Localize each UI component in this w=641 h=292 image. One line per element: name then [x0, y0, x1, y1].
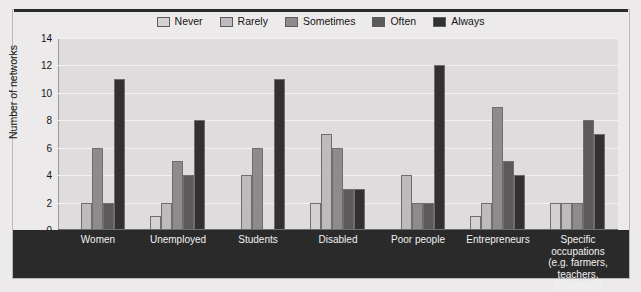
x-axis-labels: WomenUnemployedStudentsDisabledPoor peop…: [58, 230, 618, 278]
bar[interactable]: [310, 203, 321, 230]
bar[interactable]: [550, 203, 561, 230]
y-axis-title: Number of networks: [7, 12, 19, 172]
x-axis-category-label-line: Unemployed: [138, 234, 218, 246]
legend-item[interactable]: Sometimes: [285, 16, 356, 27]
x-axis-category-label: Unemployed: [138, 230, 218, 278]
bar[interactable]: [423, 203, 434, 230]
bar[interactable]: [194, 120, 205, 230]
bar-group: [58, 38, 138, 230]
bar[interactable]: [161, 203, 172, 230]
x-axis-category-label: Poor people: [378, 230, 458, 278]
legend-label: Often: [390, 16, 416, 27]
bar[interactable]: [183, 175, 194, 230]
bar[interactable]: [343, 189, 354, 230]
bar-group: [378, 38, 458, 230]
x-axis-category-label-line: Poor people: [378, 234, 458, 246]
bar-group: [218, 38, 298, 230]
bar[interactable]: [332, 148, 343, 230]
x-axis-category-label-line: Students: [218, 234, 298, 246]
bar[interactable]: [561, 203, 572, 230]
legend-label: Sometimes: [303, 16, 356, 27]
x-axis-category-label-line: teachers, fishermen): [538, 269, 618, 292]
x-axis-category-label: Disabled: [298, 230, 378, 278]
bar[interactable]: [594, 134, 605, 230]
bar[interactable]: [481, 203, 492, 230]
chart-legend: NeverRarelySometimesOftenAlways: [0, 16, 641, 27]
legend-label: Never: [175, 16, 203, 27]
legend-label: Rarely: [238, 16, 268, 27]
bar[interactable]: [434, 65, 445, 230]
bar[interactable]: [354, 189, 365, 230]
legend-item[interactable]: Often: [372, 16, 416, 27]
legend-item[interactable]: Rarely: [220, 16, 268, 27]
bar[interactable]: [114, 79, 125, 230]
bar-group: [138, 38, 218, 230]
bar[interactable]: [470, 216, 481, 230]
x-axis-category-label: Specificoccupations(e.g. farmers,teacher…: [538, 230, 618, 278]
bar[interactable]: [514, 175, 525, 230]
bar-groups: [58, 38, 618, 230]
bar-group: [538, 38, 618, 230]
x-axis-category-label-line: Specific: [538, 234, 618, 246]
bar[interactable]: [92, 148, 103, 230]
x-axis-category-label-line: Disabled: [298, 234, 378, 246]
bar[interactable]: [172, 161, 183, 230]
legend-label: Always: [451, 16, 484, 27]
x-axis-band: WomenUnemployedStudentsDisabledPoor peop…: [13, 230, 629, 278]
bar-group: [458, 38, 538, 230]
x-axis-category-label-line: occupations: [538, 246, 618, 258]
x-axis-category-label-line: (e.g. farmers,: [538, 257, 618, 269]
bar[interactable]: [583, 120, 594, 230]
legend-swatch-icon: [433, 17, 446, 27]
x-axis-category-label: Entrepreneurs: [458, 230, 538, 278]
legend-swatch-icon: [285, 17, 298, 27]
bar[interactable]: [321, 134, 332, 230]
plot-area: [58, 38, 618, 230]
bar[interactable]: [252, 148, 263, 230]
x-axis-category-label: Women: [58, 230, 138, 278]
y-axis-tick-label: 2: [12, 197, 52, 208]
legend-swatch-icon: [220, 17, 233, 27]
legend-swatch-icon: [157, 17, 170, 27]
x-axis-category-label: Students: [218, 230, 298, 278]
legend-item[interactable]: Always: [433, 16, 484, 27]
x-axis-category-label-line: Women: [58, 234, 138, 246]
bar-group: [298, 38, 378, 230]
bar[interactable]: [503, 161, 514, 230]
bar[interactable]: [241, 175, 252, 230]
bar[interactable]: [150, 216, 161, 230]
legend-item[interactable]: Never: [157, 16, 203, 27]
bar[interactable]: [412, 203, 423, 230]
bar[interactable]: [401, 175, 412, 230]
bar[interactable]: [492, 107, 503, 230]
legend-swatch-icon: [372, 17, 385, 27]
bar[interactable]: [81, 203, 92, 230]
bar[interactable]: [103, 203, 114, 230]
x-axis-category-label-line: Entrepreneurs: [458, 234, 538, 246]
chart-figure: NeverRarelySometimesOftenAlways 14121086…: [0, 0, 641, 292]
bar[interactable]: [274, 79, 285, 230]
bar[interactable]: [572, 203, 583, 230]
top-rule: [14, 9, 628, 12]
